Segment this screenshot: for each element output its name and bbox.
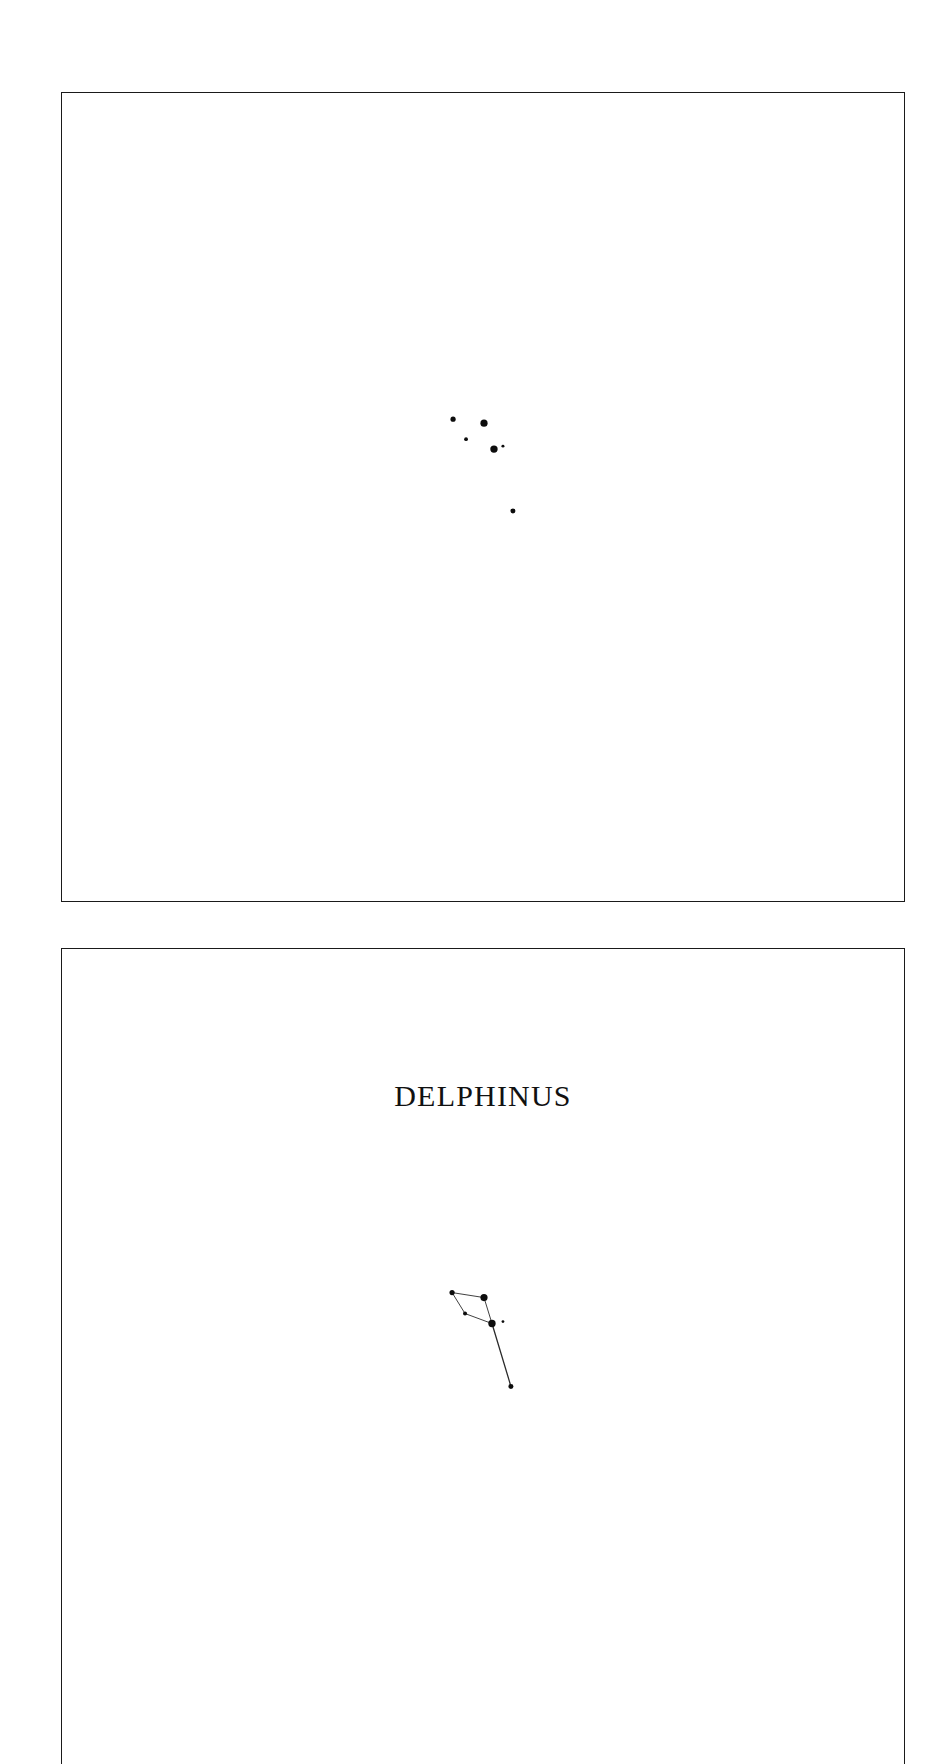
star-marker-star-5 — [502, 1320, 505, 1323]
star-marker-star-2 — [480, 420, 487, 427]
star-field-svg-plain — [62, 93, 904, 901]
star-marker-star-4 — [490, 445, 497, 452]
constellation-line-3 — [465, 1314, 492, 1324]
star-marker-star-1 — [450, 417, 455, 422]
constellation-line-4 — [484, 1298, 492, 1324]
constellation-line-5 — [492, 1324, 511, 1387]
star-marker-star-2 — [480, 1294, 487, 1301]
star-marker-star-3 — [463, 1312, 467, 1316]
star-chart-panel-labelled: DELPHINUS — [61, 948, 905, 1764]
star-field-svg-labelled — [62, 949, 904, 1764]
star-chart-panel-plain — [61, 92, 905, 902]
sky-field-labelled — [62, 949, 904, 1764]
constellation-line-2 — [452, 1293, 465, 1314]
constellation-line-1 — [452, 1293, 484, 1298]
star-marker-star-6 — [510, 508, 515, 513]
star-marker-star-3 — [464, 437, 468, 441]
star-marker-star-6 — [508, 1384, 513, 1389]
star-marker-star-4 — [488, 1320, 495, 1327]
star-marker-star-5 — [501, 445, 504, 448]
sky-field-plain — [62, 93, 904, 901]
star-marker-star-1 — [449, 1290, 454, 1295]
